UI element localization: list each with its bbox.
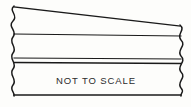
not-to-scale-diagram: NOT TO SCALE	[0, 0, 191, 107]
top-edge-line	[14, 7, 180, 26]
layer-division-line-2	[14, 58, 181, 59]
left-break-line-icon	[11, 6, 15, 96]
layer-division-line-1	[14, 34, 181, 36]
not-to-scale-label: NOT TO SCALE	[56, 75, 136, 86]
technical-drawing-canvas: NOT TO SCALE	[0, 0, 191, 107]
layer-division-line-3	[14, 63, 181, 64]
